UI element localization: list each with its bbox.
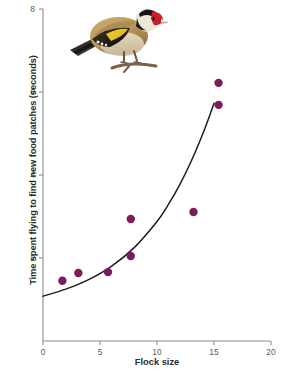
data-point <box>74 269 82 277</box>
x-axis-title: Flock size <box>43 357 271 367</box>
y-axis-title: Time spent flying to find new food patch… <box>28 30 38 310</box>
data-point <box>58 277 66 285</box>
y-tick-label: 8 <box>15 5 35 13</box>
data-point <box>214 101 222 109</box>
chart-figure: 2468 05101520 Time spent flying to find … <box>0 0 284 376</box>
x-tick-label: 0 <box>31 348 55 356</box>
y-tick-marks <box>39 9 43 258</box>
data-point <box>127 215 135 223</box>
x-tick-marks <box>43 341 271 345</box>
x-tick-label: 20 <box>259 348 283 356</box>
data-point-group <box>58 79 223 285</box>
x-tick-label: 15 <box>202 348 226 356</box>
x-tick-label: 5 <box>88 348 112 356</box>
data-point <box>189 208 197 216</box>
data-point <box>214 79 222 87</box>
trend-line-curve <box>43 103 214 296</box>
data-point <box>127 252 135 260</box>
data-point <box>104 268 112 276</box>
plot-area <box>0 0 284 376</box>
x-tick-label: 10 <box>145 348 169 356</box>
